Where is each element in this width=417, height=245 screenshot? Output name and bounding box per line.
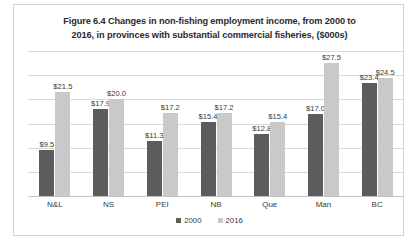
x-tick-label: NB [189, 200, 243, 209]
bar-group: $12.8$15.4 [243, 51, 297, 196]
bar-group: $17.9$20.0 [82, 51, 136, 196]
bar-group: $17.0$27.5 [297, 51, 351, 196]
x-tick-label: Man [297, 200, 351, 209]
x-tick-label: BC [350, 200, 404, 209]
bar-group: $15.4$17.2 [189, 51, 243, 196]
bar-man-2000[interactable] [308, 114, 323, 196]
bar-pei-2000[interactable] [147, 141, 162, 196]
bar-nb-2016[interactable] [217, 113, 232, 196]
legend-label: 2016 [226, 216, 243, 225]
x-axis-tick-labels: N&LNSPEINBQueManBC [28, 200, 404, 209]
chart-container: Figure 6.4 Changes in non-fishing employ… [13, 4, 404, 236]
bar-value-label: $24.5 [376, 68, 395, 77]
bar-wrapper: $17.9 [93, 51, 108, 196]
bar-group: $23.4$24.5 [350, 51, 404, 196]
legend-item-2016[interactable]: 2016 [218, 216, 243, 225]
bar-pei-2016[interactable] [163, 113, 178, 196]
bar-wrapper: $17.2 [217, 51, 232, 196]
bars-layer: $9.5$21.5$17.9$20.0$11.3$17.2$15.4$17.2$… [28, 51, 404, 196]
bar-bc-2000[interactable] [362, 83, 377, 196]
bar-value-label: $27.5 [322, 53, 341, 62]
bar-nl-2000[interactable] [39, 150, 54, 196]
legend-label: 2000 [184, 216, 201, 225]
bar-value-label: $21.5 [53, 82, 72, 91]
bar-nb-2000[interactable] [201, 122, 216, 196]
legend-item-2000[interactable]: 2000 [176, 216, 201, 225]
plot-area: $9.5$21.5$17.9$20.0$11.3$17.2$15.4$17.2$… [28, 51, 404, 196]
x-tick-label: N&L [28, 200, 82, 209]
legend-swatch-icon [176, 218, 181, 223]
bar-wrapper: $23.4 [362, 51, 377, 196]
bar-nl-2016[interactable] [55, 92, 70, 196]
bar-wrapper: $17.2 [163, 51, 178, 196]
bar-value-label: $17.2 [215, 103, 234, 112]
bar-ns-2000[interactable] [93, 109, 108, 196]
bar-value-label: $17.9 [91, 99, 110, 108]
bar-bc-2016[interactable] [378, 78, 393, 196]
bar-wrapper: $21.5 [55, 51, 70, 196]
bar-wrapper: $9.5 [39, 51, 54, 196]
bar-value-label: $17.0 [306, 104, 325, 113]
chart-legend: 20002016 [14, 216, 405, 225]
legend-swatch-icon [218, 218, 223, 223]
bar-value-label: $17.2 [161, 103, 180, 112]
bar-wrapper: $15.4 [201, 51, 216, 196]
chart-title-line-2: 2016, in provinces with substantial comm… [32, 28, 387, 42]
bar-value-label: $9.5 [39, 140, 54, 149]
x-axis-baseline [28, 196, 404, 197]
bar-wrapper: $24.5 [378, 51, 393, 196]
bar-group: $11.3$17.2 [135, 51, 189, 196]
bar-wrapper: $27.5 [324, 51, 339, 196]
bar-value-label: $15.4 [268, 112, 287, 121]
x-tick-label: NS [82, 200, 136, 209]
x-tick-label: Que [243, 200, 297, 209]
bar-value-label: $11.3 [145, 131, 163, 140]
chart-title: Figure 6.4 Changes in non-fishing employ… [32, 14, 387, 42]
bar-que-2016[interactable] [270, 122, 285, 196]
bar-value-label: $12.8 [252, 124, 271, 133]
bar-wrapper: $17.0 [308, 51, 323, 196]
bar-wrapper: $15.4 [270, 51, 285, 196]
bar-value-label: $15.4 [199, 112, 218, 121]
chart-title-line-1: Figure 6.4 Changes in non-fishing employ… [32, 14, 387, 28]
bar-ns-2016[interactable] [109, 99, 124, 196]
bar-wrapper: $20.0 [109, 51, 124, 196]
bar-wrapper: $11.3 [147, 51, 162, 196]
x-tick-label: PEI [135, 200, 189, 209]
bar-man-2016[interactable] [324, 63, 339, 196]
bar-group: $9.5$21.5 [28, 51, 82, 196]
bar-que-2000[interactable] [254, 134, 269, 196]
bar-value-label: $20.0 [107, 89, 126, 98]
bar-wrapper: $12.8 [254, 51, 269, 196]
